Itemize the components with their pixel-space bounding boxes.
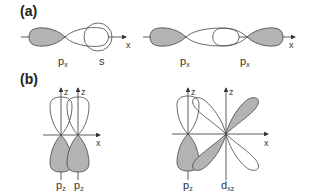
z2-axis-label: z <box>229 87 234 97</box>
panel-a-label: (a) <box>20 3 37 19</box>
px-label: px <box>58 55 68 68</box>
z2-axis-label: z <box>81 87 86 97</box>
x-axis-label: x <box>264 138 269 148</box>
panel-b-pz-dxz-overlap: z z x pz dxz <box>172 87 269 192</box>
panel-b-label: (b) <box>20 71 38 87</box>
px1-negative-lobe <box>150 28 186 46</box>
x-axis-label: x <box>126 40 131 50</box>
px1-label: px <box>180 55 190 68</box>
z1-axis-label: z <box>191 87 196 97</box>
px2-positive-lobe <box>247 28 283 46</box>
pz1-label: pz <box>56 179 66 192</box>
dxz-upper-right-lobe <box>226 98 258 134</box>
pz2-negative-lobe <box>67 135 89 172</box>
panel-b-pz-pz-overlap: z z x pz pz <box>43 87 101 192</box>
x-axis-label: x <box>96 138 101 148</box>
dxz-label: dxz <box>221 179 235 192</box>
dxz-lower-right-lobe <box>226 134 258 170</box>
px2-label: px <box>240 55 250 68</box>
s-label: s <box>99 55 105 67</box>
z1-axis-label: z <box>64 87 69 97</box>
pz-label: pz <box>183 179 193 192</box>
px-negative-lobe <box>29 28 65 46</box>
px-positive-lobe <box>65 28 109 47</box>
x-axis-label: x <box>289 40 294 50</box>
pz2-label: pz <box>74 179 84 192</box>
panel-a-px-px-overlap: x px px <box>143 28 295 68</box>
panel-a-px-s-overlap: x px s <box>21 23 131 68</box>
orbital-overlap-figure: (a) x px s x px px (b) z z x pz pz <box>0 0 309 194</box>
